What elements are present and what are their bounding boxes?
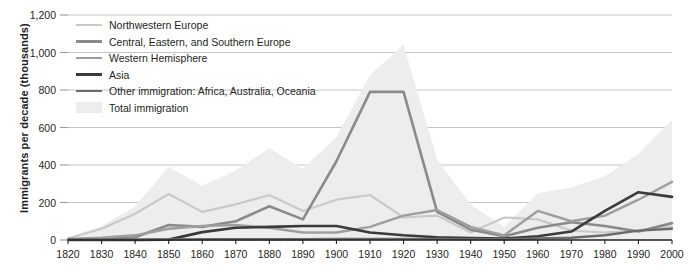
y-tick-label: 400 — [0, 160, 56, 170]
y-tick-label: 1,200 — [0, 10, 56, 20]
legend-swatch-3 — [76, 73, 102, 76]
legend-swatch-1 — [76, 40, 102, 43]
legend-label: Other immigration: Africa, Australia, Oc… — [109, 85, 316, 97]
legend-item: Total immigration — [76, 100, 316, 117]
y-tick-label: 600 — [0, 123, 56, 133]
y-tick-label: 0 — [0, 235, 56, 245]
legend-swatch-4 — [76, 90, 102, 92]
legend-item: Other immigration: Africa, Australia, Oc… — [76, 83, 316, 100]
legend-item: Northwestern Europe — [76, 17, 316, 34]
y-tick-label: 1,000 — [0, 48, 56, 58]
legend-swatch-2 — [76, 57, 102, 59]
legend-label: Northwestern Europe — [109, 19, 208, 31]
legend-label: Total immigration — [109, 102, 188, 114]
legend-item: Western Hemisphere — [76, 50, 316, 67]
legend-label: Western Hemisphere — [109, 52, 207, 64]
y-tick-label: 200 — [0, 198, 56, 208]
legend-item: Asia — [76, 67, 316, 84]
legend-swatch-0 — [76, 24, 102, 26]
legend-label: Central, Eastern, and Southern Europe — [109, 36, 291, 48]
x-tick-label: 2000 — [652, 249, 688, 260]
y-tick-label: 800 — [0, 85, 56, 95]
legend-item: Central, Eastern, and Southern Europe — [76, 34, 316, 51]
legend-swatch-5 — [76, 102, 102, 113]
legend-label: Asia — [109, 69, 129, 81]
chart-legend: Northwestern EuropeCentral, Eastern, and… — [76, 17, 316, 116]
